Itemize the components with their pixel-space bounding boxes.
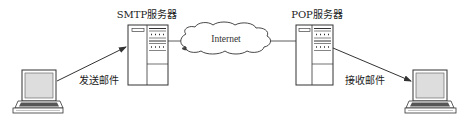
pop-server-label: POP服务器 bbox=[291, 8, 343, 20]
sender-laptop-icon bbox=[13, 70, 63, 113]
pop-server-icon bbox=[296, 25, 333, 85]
receiver-laptop-icon bbox=[405, 70, 456, 113]
smtp-server-icon bbox=[128, 25, 168, 85]
receive-mail-label: 接收邮件 bbox=[345, 74, 385, 86]
smtp-server-label: SMTP服务器 bbox=[117, 8, 178, 20]
send-mail-label: 发送邮件 bbox=[79, 74, 119, 86]
email-flow-diagram: 发送邮件 SMTP服务器 Internet POP服务器 bbox=[0, 0, 467, 124]
internet-label: Internet bbox=[211, 34, 241, 44]
